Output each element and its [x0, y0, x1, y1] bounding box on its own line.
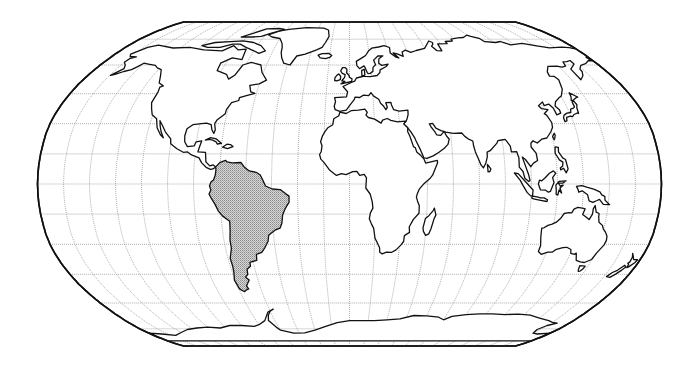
world-map-canvas [0, 0, 691, 374]
world-map: World map highlighting South America Sou… [0, 0, 691, 374]
landmass-iceland [318, 53, 332, 58]
